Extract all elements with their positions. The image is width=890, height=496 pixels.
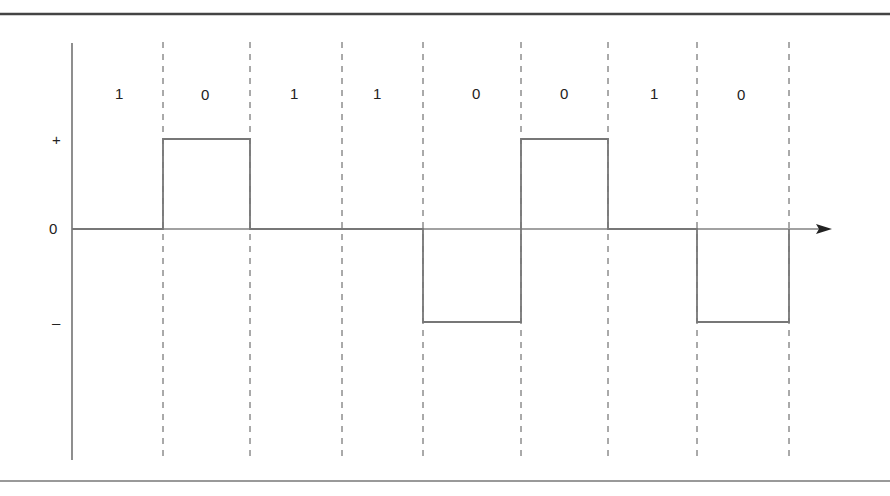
bit-label: 0 <box>201 86 209 103</box>
bit-label: 0 <box>472 85 480 102</box>
bit-label: 1 <box>650 85 658 102</box>
bit-label: 0 <box>560 85 568 102</box>
bit-label: 1 <box>373 85 381 102</box>
signal-waveform <box>72 139 789 322</box>
level-zero-label: 0 <box>49 220 57 237</box>
bit-boundaries <box>163 42 789 460</box>
level-minus-label: – <box>52 314 61 331</box>
line-code-diagram: + 0 – 1 0 1 1 0 0 1 0 <box>0 0 890 496</box>
bit-label: 0 <box>737 86 745 103</box>
bit-label: 1 <box>290 85 298 102</box>
level-plus-label: + <box>52 131 61 148</box>
bit-label: 1 <box>115 85 123 102</box>
